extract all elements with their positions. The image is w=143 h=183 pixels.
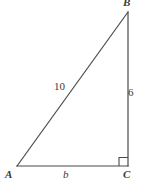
vertex-label-b: B (123, 0, 130, 8)
right-angle-marker-icon (119, 158, 128, 167)
triangle-diagram (0, 0, 143, 183)
side-length-horizontal-leg: b (63, 169, 69, 180)
vertex-label-a: A (5, 169, 12, 180)
side-length-hypotenuse: 10 (54, 81, 65, 92)
geometry-figure: A B C 10 6 b (0, 0, 143, 183)
side-AB-line (17, 12, 128, 166)
vertex-label-c: C (123, 169, 130, 180)
side-length-vertical-leg: 6 (128, 87, 134, 98)
